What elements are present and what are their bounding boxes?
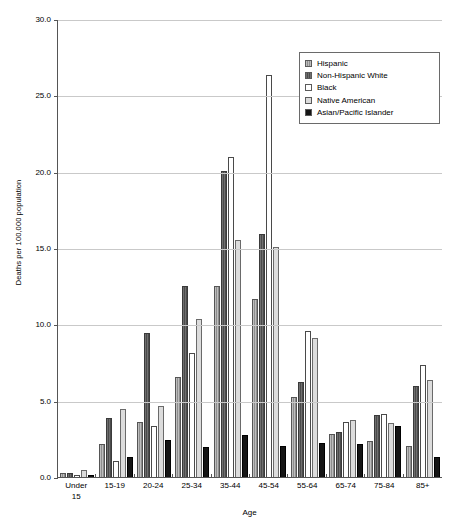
bar <box>336 432 342 478</box>
bar <box>137 422 143 478</box>
bar <box>357 444 363 478</box>
bar <box>298 382 304 478</box>
y-axis-tick-label: 20.0 <box>35 169 51 177</box>
y-axis-tick-label: 0.0 <box>40 474 51 482</box>
x-axis-line <box>58 477 442 478</box>
chart-legend: HispanicNon-Hispanic WhiteBlackNative Am… <box>299 52 440 124</box>
legend-swatch-icon <box>305 97 312 104</box>
x-axis-tick-label-line: 55-64 <box>288 481 327 492</box>
gridline <box>58 402 442 403</box>
legend-label: Black <box>317 83 337 92</box>
bar <box>113 461 119 478</box>
legend-swatch-icon <box>305 60 312 67</box>
y-axis-tick <box>54 402 58 403</box>
bar <box>291 397 297 478</box>
bar <box>196 319 202 478</box>
x-axis-tick-label: 15-19 <box>96 481 135 502</box>
y-axis-tick-label: 10.0 <box>35 321 51 329</box>
bar <box>434 457 440 478</box>
x-axis-tick-label: 85+ <box>404 481 443 502</box>
legend-item[interactable]: Hispanic <box>305 57 434 69</box>
gridline <box>58 173 442 174</box>
x-axis-tick-label: 20-24 <box>134 481 173 502</box>
legend-label: Non-Hispanic White <box>317 71 388 80</box>
x-axis-tick-label-line: 15-19 <box>96 481 135 492</box>
bar <box>228 157 234 478</box>
x-axis-tick-label-line: 20-24 <box>134 481 173 492</box>
x-axis-tick-label-line: 25-34 <box>173 481 212 492</box>
legend-label: Hispanic <box>317 59 348 68</box>
bar <box>235 240 241 478</box>
y-axis-tick <box>54 325 58 326</box>
gridline <box>58 325 442 326</box>
legend-item[interactable]: Native American <box>305 94 434 106</box>
x-axis-tick-label: Under15 <box>57 481 96 502</box>
bar <box>312 338 318 478</box>
bar <box>189 353 195 478</box>
bar <box>406 446 412 478</box>
bar <box>273 247 279 478</box>
y-axis-tick <box>54 173 58 174</box>
x-axis-tick-label-line: 75-84 <box>365 481 404 492</box>
x-axis-tick-label: 35-44 <box>211 481 250 502</box>
legend-swatch-icon <box>305 109 312 116</box>
y-axis-tick <box>54 20 58 21</box>
bar <box>165 440 171 478</box>
bar <box>266 75 272 478</box>
bar <box>381 414 387 478</box>
x-axis-tick-label-line: 45-54 <box>250 481 289 492</box>
bar-chart: Deaths per 100,000 population 0.05.010.0… <box>0 0 449 528</box>
bar <box>427 380 433 478</box>
legend-swatch-icon <box>305 84 312 91</box>
y-axis-tick <box>54 249 58 250</box>
y-axis-title: Deaths per 100,000 population <box>14 153 23 313</box>
y-axis-tick-label: 15.0 <box>35 245 51 253</box>
y-axis-tick <box>54 478 58 479</box>
bar <box>319 443 325 478</box>
y-axis-tick <box>54 96 58 97</box>
bar <box>151 426 157 478</box>
bar <box>395 426 401 478</box>
bar <box>350 420 356 478</box>
bar <box>413 386 419 478</box>
legend-item[interactable]: Non-Hispanic White <box>305 69 434 81</box>
bar <box>158 406 164 478</box>
y-axis-tick-label: 30.0 <box>35 16 51 24</box>
bar <box>182 286 188 478</box>
x-axis-tick-label-line: Under <box>57 481 96 492</box>
x-axis-tick-label: 65-74 <box>327 481 366 502</box>
bar <box>280 446 286 478</box>
y-axis-tick-label: 25.0 <box>35 92 51 100</box>
x-axis-tick-label-line: 15 <box>57 492 96 503</box>
bar <box>127 457 133 478</box>
y-axis-tick-label: 5.0 <box>40 398 51 406</box>
x-axis-tick-labels: Under1515-1920-2425-3435-4445-5455-6465-… <box>57 481 442 502</box>
bar <box>388 423 394 478</box>
x-axis-tick-label-line: 35-44 <box>211 481 250 492</box>
legend-swatch-icon <box>305 72 312 79</box>
bar <box>259 234 265 478</box>
legend-item[interactable]: Asian/Pacific Islander <box>305 107 434 119</box>
x-axis-tick-label: 25-34 <box>173 481 212 502</box>
bar <box>175 377 181 478</box>
gridline <box>58 249 442 250</box>
bar <box>420 365 426 478</box>
gridline <box>58 20 442 21</box>
x-axis-tick-label: 75-84 <box>365 481 404 502</box>
bar <box>374 415 380 478</box>
bar <box>203 447 209 478</box>
x-axis-tick-label: 55-64 <box>288 481 327 502</box>
bar <box>144 333 150 478</box>
x-axis-tick-label-line: 65-74 <box>327 481 366 492</box>
x-axis-tick-label-line: 85+ <box>404 481 443 492</box>
legend-item[interactable]: Black <box>305 82 434 94</box>
legend-label: Native American <box>317 96 375 105</box>
bar <box>329 434 335 478</box>
legend-label: Asian/Pacific Islander <box>317 108 393 117</box>
bar <box>99 444 105 478</box>
bar <box>120 409 126 478</box>
bar <box>242 435 248 478</box>
bar <box>343 422 349 478</box>
bar <box>305 331 311 478</box>
bar <box>214 286 220 478</box>
